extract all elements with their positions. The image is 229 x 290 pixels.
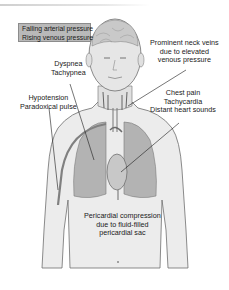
heart-pericardium — [107, 154, 127, 190]
cardiac-label: Chest pain Tachycardia Distant heart sou… — [150, 89, 216, 115]
pericardium-label: Pericardial compression due to fluid-fil… — [84, 212, 161, 238]
respiratory-label: Dyspnea Tachypnea — [51, 60, 86, 77]
respiratory-line2: Tachypnea — [51, 69, 86, 78]
pericardium-line3: pericardial sac — [84, 229, 161, 238]
pressure-label-box: Falling arterial pressure Rising venous … — [18, 23, 91, 42]
pressure-label-line1: Falling arterial pressure — [22, 25, 90, 34]
neck-veins-label: Prominent neck veins due to elevated ven… — [150, 39, 219, 65]
cardiac-line3: Distant heart sounds — [150, 106, 216, 115]
neck-veins-line3: venous pressure — [150, 56, 219, 65]
brain — [92, 20, 138, 46]
circulation-label: Hypotension Paradoxical pulse — [20, 94, 77, 111]
circulation-line2: Paradoxical pulse — [20, 103, 77, 112]
pressure-label-line2: Rising venous pressure — [22, 34, 90, 43]
